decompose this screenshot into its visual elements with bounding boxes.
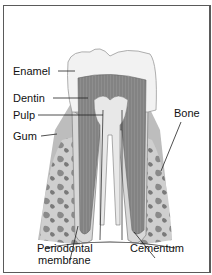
- label-cementum: Cementum: [130, 242, 184, 254]
- label-membrane: membrane: [38, 254, 91, 266]
- label-dentin: Dentin: [13, 92, 45, 104]
- label-bone: Bone: [174, 107, 200, 119]
- label-pulp: Pulp: [13, 109, 35, 121]
- label-periodontal: Periodontal: [37, 242, 93, 254]
- label-enamel: Enamel: [13, 65, 50, 77]
- label-gum: Gum: [13, 130, 37, 142]
